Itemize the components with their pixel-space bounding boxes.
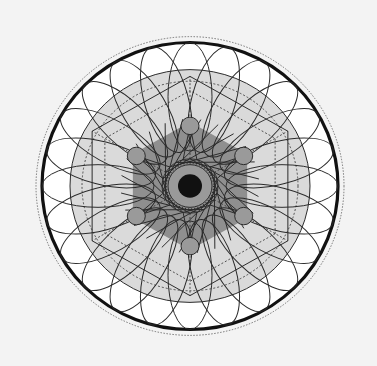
spoke-line — [165, 123, 166, 199]
hexagon-node — [235, 147, 253, 164]
mandala-diagram — [0, 0, 377, 366]
mandala-root — [36, 37, 344, 336]
hexagon-node — [181, 117, 199, 134]
hexagon-node — [181, 237, 199, 254]
core-circle — [178, 174, 202, 197]
hexagon-node — [127, 207, 145, 224]
hexagon-node — [235, 207, 253, 224]
hexagon-node — [127, 147, 145, 164]
